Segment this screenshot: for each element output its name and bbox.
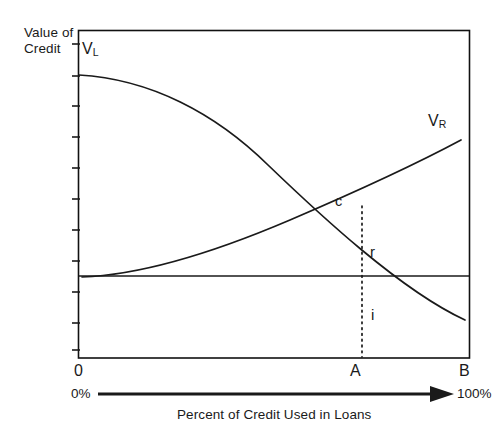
credit-value-chart: Value of Credit VL VR c r i 0 A B 0% 100… [0,0,501,439]
vl-label-subscript: L [93,46,99,58]
vr-label-base: V [428,112,439,129]
vl-curve [79,75,465,320]
x-axis-caption: Percent of Credit Used in Loans [177,407,371,422]
vr-curve [82,140,461,277]
segment-label-r: r [370,244,375,261]
vl-series-label: VL [82,40,99,59]
percent-min-label: 0% [71,386,91,401]
x-tick-label-a: A [350,362,361,380]
vl-label-base: V [82,40,93,57]
segment-label-i: i [371,307,374,324]
x-tick-label-b: B [459,362,470,380]
plot-frame [79,31,470,359]
percent-range-arrow [98,386,454,402]
y-axis-title-line1: Value of [24,25,73,40]
x-tick-label-0: 0 [74,362,83,380]
intersection-label-c: c [335,193,342,209]
vr-series-label: VR [428,112,446,131]
y-axis-title-line2: Credit [24,41,61,56]
percent-max-label: 100% [457,386,492,401]
vr-label-subscript: R [439,118,447,130]
